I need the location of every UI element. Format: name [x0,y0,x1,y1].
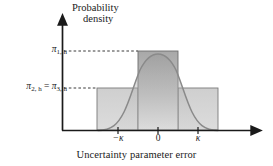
x-tick-label-neg-kappa: −κ [106,133,130,143]
pi3-subscript: 3, h [57,85,68,93]
y-axis-title-line1: Probability [72,2,119,13]
y-axis-title-line2: density [72,13,119,24]
equals-sign: = [42,81,52,91]
pi2-subscript: 2, h [31,85,42,93]
y-axis-title: Probability density [72,2,119,25]
y-tick-label-pi2h-pi3h: π2, h = π3, h [26,81,67,93]
x-tick-label-zero: 0 [146,133,170,143]
pi-subscript: 1, h [57,48,68,56]
y-tick-label-pi1h: π1, h [52,44,67,56]
probability-density-figure: Probability density π1, h π2, h = π3, h … [0,0,273,166]
x-axis-title: Uncertainty parameter error [0,149,273,160]
x-tick-label-pos-kappa: κ [186,133,210,143]
